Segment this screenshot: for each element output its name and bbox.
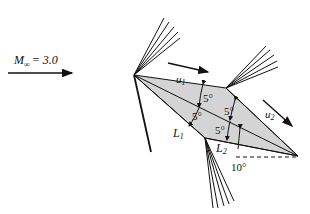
L1-label: L1 [172, 126, 184, 141]
u2-label: u2 [265, 108, 275, 122]
u1-velocity-arrow [168, 63, 208, 72]
u1-label: u1 [176, 73, 186, 87]
angle-label-upper-rear: 5° [224, 105, 234, 117]
angle-label-lower-front: 5° [192, 110, 202, 122]
L2-label: L2 [215, 141, 227, 156]
angle-label-lower-rear: 5° [215, 124, 225, 136]
angle-label-incidence: 10° [231, 161, 246, 173]
angle-label-upper-front: 5° [203, 92, 213, 104]
freestream-mach-label: M∞= 3.0 [13, 53, 58, 69]
leading-edge-upper-wave-fan [134, 18, 180, 75]
upper-vertex-expansion-fan [226, 46, 278, 88]
freestream-group: M∞= 3.0 [8, 53, 72, 73]
supersonic-diamond-airfoil-diagram: M∞= 3.0 u1 u2 L1 L2 [0, 0, 310, 214]
